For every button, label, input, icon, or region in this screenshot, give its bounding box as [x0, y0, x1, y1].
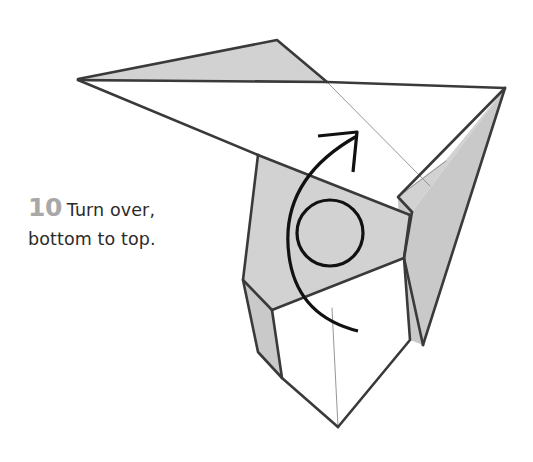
- facet-left-wing-gray-top: [78, 40, 327, 82]
- caption-line-2: bottom to top.: [28, 227, 223, 252]
- step-number: 10: [28, 193, 62, 222]
- outline-wing-spine: [78, 80, 505, 88]
- step-caption: 10Turn over, bottom to top.: [28, 190, 223, 251]
- diagram-page: 10Turn over, bottom to top.: [0, 0, 533, 462]
- caption-line-1: Turn over,: [67, 200, 155, 220]
